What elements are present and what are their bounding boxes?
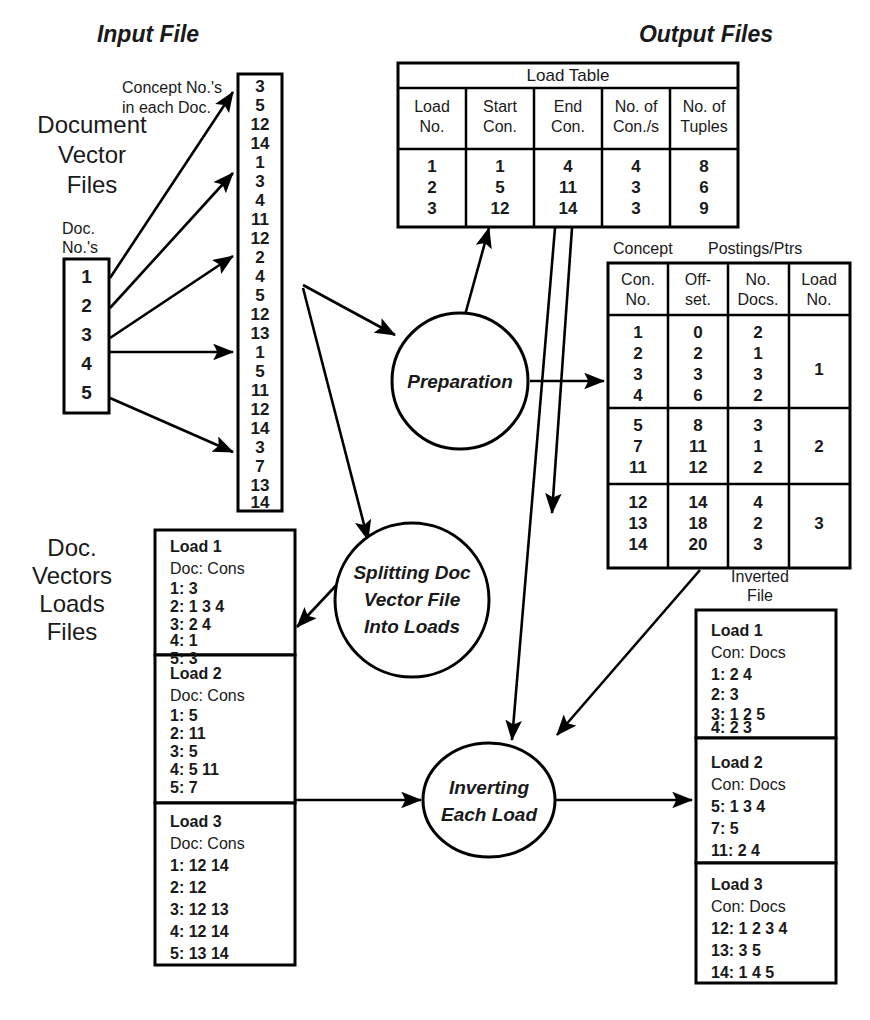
postings-cell: 3 — [753, 365, 762, 384]
doc-vectors-loads-boxes: Load 1 Doc: Cons 1: 3 2: 1 3 4 3: 2 4 4:… — [155, 530, 295, 965]
doc-nos-label-line1: Doc. — [62, 220, 95, 237]
doc-number-cell: 3 — [81, 324, 92, 345]
concept-number-cell: 4 — [255, 267, 265, 286]
load-table-cell: 4 — [563, 157, 573, 176]
doc-number-cell: 5 — [81, 382, 92, 403]
load-table-cell: 1 — [495, 157, 504, 176]
doc-number-cell: 1 — [81, 266, 92, 287]
postings-to-inverting-arrow — [557, 570, 700, 735]
inverted-load-row: 1: 2 4 — [711, 666, 752, 683]
postings-cell: 14 — [629, 535, 648, 554]
postings-col-header: set. — [685, 291, 711, 308]
process-label: Into Loads — [364, 616, 460, 637]
load-table-col-header: No. of — [615, 98, 658, 115]
doc-vectors-loads-files-label-line3: Loads — [39, 590, 104, 617]
load-table-col-header: No. — [420, 118, 445, 135]
postings-cell: 2 — [753, 514, 762, 533]
doc-numbers-column: 1 2 3 4 5 — [64, 259, 109, 413]
process-splitting[interactable]: Splitting Doc Vector File Into Loads — [335, 523, 489, 677]
doc-load-row: 5: 7 — [170, 779, 198, 796]
process-inverting[interactable]: Inverting Each Load — [423, 743, 555, 857]
doc-vectors-loads-files-label-line4: Files — [47, 618, 98, 645]
postings-cell: 18 — [689, 514, 708, 533]
inverted-load-title: Load 2 — [711, 754, 763, 771]
doc-number-cell: 4 — [81, 353, 92, 374]
load-table-cell: 4 — [631, 157, 641, 176]
doc-vectors-loads-files-label-line2: Vectors — [32, 562, 112, 589]
doc-to-concept-arrow — [110, 173, 233, 308]
doc-load-title: Load 2 — [170, 665, 222, 682]
inverted-file-label-line1: Inverted — [731, 568, 789, 585]
postings-cell: 11 — [689, 437, 707, 456]
preparation-to-load-table-arrow — [465, 228, 489, 315]
concept-to-splitting-arrow — [303, 288, 368, 540]
postings-col-header: Docs. — [738, 291, 779, 308]
doc-load-row: 4: 5 11 — [170, 761, 219, 778]
concept-number-cell: 5 — [255, 286, 264, 305]
doc-to-concept-arrows — [110, 92, 233, 452]
concept-number-cell: 7 — [255, 457, 264, 476]
inverted-load-row: 4: 2 3 — [711, 719, 752, 736]
concept-number-cell: 14 — [251, 134, 270, 153]
postings-load-no: 2 — [814, 437, 823, 456]
doc-load-row: 5: 13 14 — [170, 945, 229, 962]
postings-cell: 3 — [753, 535, 762, 554]
postings-col-header: No. — [807, 291, 832, 308]
concept-number-cell: 3 — [255, 438, 264, 457]
concept-numbers-column: 3 5 12 14 1 3 4 11 12 2 4 5 12 13 1 5 11… — [238, 74, 282, 512]
postings-col-header: No. — [746, 271, 771, 288]
postings-load-no: 3 — [814, 514, 823, 533]
postings-cell: 2 — [753, 386, 762, 405]
doc-load-header: Doc: Cons — [170, 560, 245, 577]
concept-nos-label-line2: in each Doc. — [122, 99, 211, 116]
load-table-col-header: Start — [483, 98, 517, 115]
postings-cell: 2 — [753, 323, 762, 342]
doc-load-row: 1: 3 — [170, 580, 198, 597]
doc-to-concept-arrow — [110, 398, 233, 452]
postings-ptrs-label: Postings/Ptrs — [708, 240, 802, 257]
doc-nos-label-line2: No.'s — [62, 239, 98, 256]
doc-load-row: 3: 5 — [170, 743, 198, 760]
output-files-heading: Output Files — [639, 21, 773, 47]
doc-vectors-loads-files-label-line1: Doc. — [47, 534, 96, 561]
load-table-cell: 11 — [559, 178, 577, 197]
load-table-col-header: Con. — [483, 118, 517, 135]
concept-table-label: Concept — [613, 240, 673, 257]
postings-cell: 3 — [633, 365, 642, 384]
postings-cell: 4 — [753, 493, 763, 512]
process-label: Preparation — [407, 371, 513, 392]
inverted-load-row: 13: 3 5 — [711, 942, 761, 959]
doc-load-title: Load 3 — [170, 813, 222, 830]
inverted-load-row: 12: 1 2 3 4 — [711, 920, 788, 937]
load-table-cell: 9 — [699, 199, 708, 218]
load-table-cell: 2 — [427, 178, 436, 197]
doc-load-row: 2: 12 — [170, 879, 207, 896]
concept-number-cell: 1 — [255, 343, 264, 362]
postings-cell: 12 — [629, 493, 648, 512]
postings-cell: 5 — [633, 416, 642, 435]
process-preparation[interactable]: Preparation — [392, 313, 528, 449]
postings-cell: 6 — [693, 386, 702, 405]
load-table-cell: 5 — [495, 178, 504, 197]
concept-number-cell: 5 — [255, 96, 264, 115]
postings-cell: 3 — [753, 416, 762, 435]
inverted-file-boxes: Load 1 Con: Docs 1: 2 4 2: 3 3: 1 2 5 4:… — [696, 610, 836, 983]
doc-load-row: 2: 11 — [170, 725, 206, 742]
inverted-load-title: Load 3 — [711, 876, 763, 893]
postings-cell: 4 — [633, 386, 643, 405]
postings-col-header: Con. — [621, 271, 655, 288]
load-table-cell: 1 — [427, 157, 436, 176]
inverted-load-row: 7: 5 — [711, 820, 739, 837]
inverted-load-title: Load 1 — [711, 622, 763, 639]
concept-number-cell: 1 — [255, 153, 264, 172]
inverted-load-row: 2: 3 — [711, 686, 739, 703]
load-table-cell: 12 — [491, 199, 510, 218]
load-table-col-header: Load — [414, 98, 450, 115]
doc-load-row: 3: 12 13 — [170, 901, 229, 918]
postings-cell: 0 — [693, 323, 702, 342]
load-table-cell: 3 — [631, 178, 640, 197]
load-table-cell: 3 — [631, 199, 640, 218]
load-table-cell: 3 — [427, 199, 436, 218]
doc-load-row: 2: 1 3 4 — [170, 598, 224, 615]
concept-to-preparation-arrow — [303, 285, 395, 335]
